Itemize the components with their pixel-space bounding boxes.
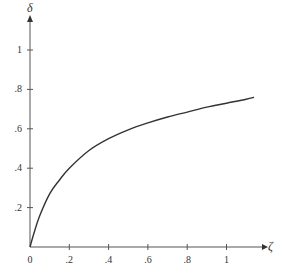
x-tick-label: .8 [183,254,191,265]
x-tick-label: .2 [66,254,74,265]
x-tick-label: .4 [105,254,113,265]
axes [27,15,268,250]
x-axis-label: ζ [268,239,274,253]
y-axis-label: δ [27,1,33,15]
data-curve [30,97,254,247]
x-tick-label: 1 [224,254,229,265]
y-tick-label: .2 [15,202,23,213]
y-tick-label: .4 [15,162,23,173]
x-tick-label: .6 [144,254,152,265]
y-tick-label: .6 [15,123,23,134]
y-tick-label: .8 [15,83,23,94]
y-tick-label: 1 [17,44,22,55]
x-tick-label: 0 [28,254,33,265]
chart: 0.2.4.6.81.2.4.6.81 ζ δ [0,0,289,273]
ticks: 0.2.4.6.81.2.4.6.81 [15,44,230,265]
y-axis-arrow-icon [27,15,33,22]
